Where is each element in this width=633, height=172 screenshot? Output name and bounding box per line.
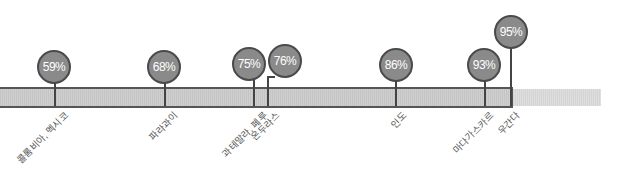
value-bubble: 95% <box>494 15 528 49</box>
marker-stem <box>510 48 512 106</box>
value-label: 93% <box>473 58 496 72</box>
category-label: 인도 <box>387 108 410 131</box>
value-bubble: 75% <box>232 47 266 81</box>
value-label: 95% <box>500 25 523 39</box>
category-label: 마다가스카르 <box>449 108 497 156</box>
percentage-timeline-chart: 59% 콜롬비아, 멕시코 68% 파라과이 75% 과테말라, 페루 76% … <box>0 0 633 172</box>
value-bubble: 93% <box>467 48 501 82</box>
timeline-bar-extension <box>513 89 601 106</box>
category-label: 파라과이 <box>146 108 181 143</box>
marker-stem <box>54 82 56 106</box>
value-bubble: 76% <box>268 44 302 78</box>
value-label: 76% <box>274 54 297 68</box>
timeline-bar <box>0 87 513 108</box>
value-label: 86% <box>385 58 408 72</box>
marker-stem <box>267 76 269 106</box>
marker-stem <box>484 81 486 106</box>
category-label: 콜롬비아, 멕시코 <box>13 108 71 166</box>
value-label: 59% <box>43 60 66 74</box>
marker-stem <box>164 82 166 106</box>
marker-stem <box>395 81 397 106</box>
marker-stem <box>253 80 255 106</box>
value-bubble: 86% <box>379 48 413 82</box>
value-label: 75% <box>238 57 261 71</box>
value-label: 68% <box>153 60 176 74</box>
marker-connector <box>267 76 275 78</box>
category-label: 우간다 <box>494 108 523 137</box>
value-bubble: 68% <box>147 50 181 84</box>
value-bubble: 59% <box>37 50 71 84</box>
